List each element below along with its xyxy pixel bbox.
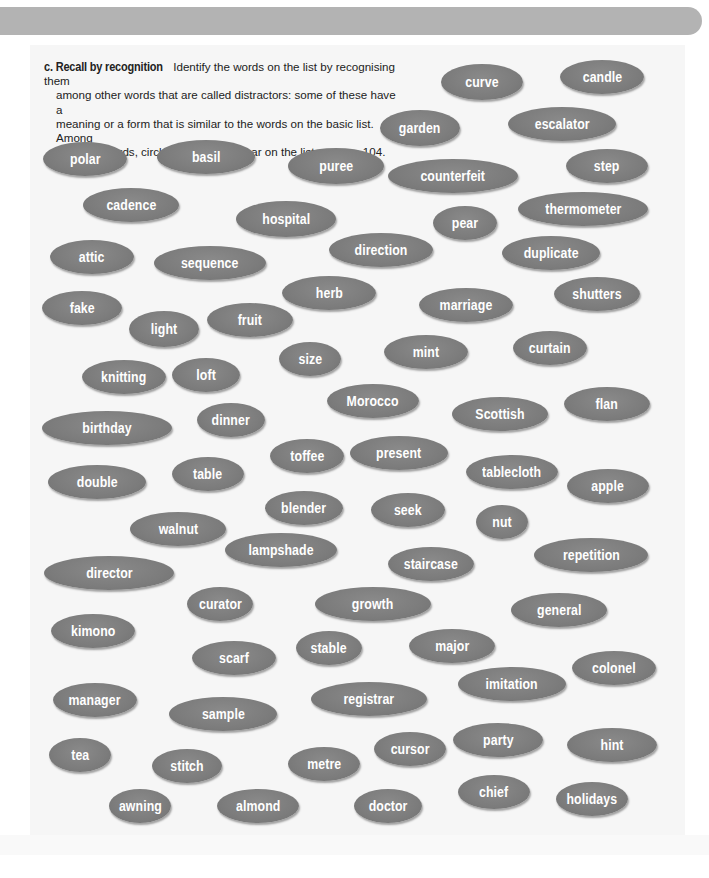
word-label: attic [79,249,105,265]
word-label: shutters [572,286,621,302]
word-oval-party[interactable]: party [453,723,543,757]
word-label: toffee [290,448,324,464]
word-oval-hint[interactable]: hint [567,728,657,762]
word-oval-cursor[interactable]: cursor [374,732,446,766]
word-label: seek [394,502,422,518]
word-oval-counterfeit[interactable]: counterfeit [388,159,518,193]
word-oval-tea[interactable]: tea [49,738,111,772]
word-label: doctor [369,798,408,814]
word-oval-garden[interactable]: garden [380,110,460,146]
word-oval-stable[interactable]: stable [296,631,362,665]
word-oval-scottish[interactable]: Scottish [452,397,548,431]
word-oval-tablecloth[interactable]: tablecloth [466,455,558,489]
word-label: size [298,351,322,367]
word-oval-doctor[interactable]: doctor [354,789,422,823]
word-oval-director[interactable]: director [44,556,174,590]
word-oval-nut[interactable]: nut [476,505,528,539]
word-oval-seek[interactable]: seek [371,493,445,527]
word-label: hint [601,737,624,753]
word-oval-hospital[interactable]: hospital [236,201,336,237]
word-oval-blender[interactable]: blender [265,491,343,525]
word-label: mint [413,344,439,360]
word-oval-repetition[interactable]: repetition [534,538,648,572]
word-oval-general[interactable]: general [511,593,607,627]
word-oval-growth[interactable]: growth [315,587,431,621]
word-oval-attic[interactable]: attic [50,240,134,274]
word-oval-loft[interactable]: loft [172,358,240,392]
word-label: repetition [562,547,619,563]
word-label: walnut [158,521,198,537]
word-oval-almond[interactable]: almond [217,789,299,823]
word-label: cadence [106,197,156,213]
word-oval-walnut[interactable]: walnut [130,512,226,546]
word-oval-light[interactable]: light [129,311,199,347]
word-label: garden [399,120,441,136]
word-oval-fruit[interactable]: fruit [207,303,293,337]
word-oval-curve[interactable]: curve [441,64,523,100]
word-oval-herb[interactable]: herb [282,276,376,310]
word-oval-curator[interactable]: curator [187,587,253,621]
word-oval-table[interactable]: table [172,457,244,491]
word-oval-fake[interactable]: fake [42,291,122,325]
word-oval-sequence[interactable]: sequence [154,246,266,280]
word-oval-thermometer[interactable]: thermometer [518,192,648,226]
word-oval-flan[interactable]: flan [564,387,650,421]
word-oval-apple[interactable]: apple [567,469,649,503]
word-label: sequence [181,255,239,271]
word-oval-present[interactable]: present [350,436,448,470]
word-oval-step[interactable]: step [566,149,648,183]
word-oval-mint[interactable]: mint [384,335,468,369]
word-oval-stitch[interactable]: stitch [152,749,222,783]
word-label: nut [492,514,511,530]
word-oval-birthday[interactable]: birthday [42,411,172,445]
word-label: light [151,321,177,337]
word-label: fruit [238,312,262,328]
word-oval-duplicate[interactable]: duplicate [502,236,600,270]
word-oval-kimono[interactable]: kimono [51,614,135,648]
word-label: counterfeit [421,168,486,184]
word-oval-escalator[interactable]: escalator [508,107,616,141]
word-oval-registrar[interactable]: registrar [311,682,427,716]
word-oval-lampshade[interactable]: lampshade [225,533,337,567]
word-oval-double[interactable]: double [48,465,146,499]
word-label: curtain [529,340,571,356]
word-label: cursor [391,741,430,757]
word-label: knitting [101,369,146,385]
word-oval-colonel[interactable]: colonel [572,651,656,685]
word-oval-marriage[interactable]: marriage [419,288,513,322]
exercise-label: c. Recall by recognition [44,60,163,74]
word-label: general [537,602,581,618]
word-oval-dinner[interactable]: dinner [197,403,265,437]
word-oval-direction[interactable]: direction [329,233,433,267]
word-oval-candle[interactable]: candle [560,60,644,94]
word-oval-pear[interactable]: pear [433,206,497,240]
word-label: growth [352,596,394,612]
word-oval-toffee[interactable]: toffee [270,439,344,473]
word-label: tea [71,747,89,763]
word-oval-knitting[interactable]: knitting [82,360,166,394]
word-oval-curtain[interactable]: curtain [513,331,587,365]
word-label: flan [596,396,618,412]
word-oval-awning[interactable]: awning [109,789,171,823]
word-oval-polar[interactable]: polar [43,142,127,176]
word-oval-size[interactable]: size [279,342,341,376]
word-oval-metre[interactable]: metre [288,747,360,781]
word-oval-scarf[interactable]: scarf [192,641,276,675]
word-label: staircase [404,556,458,572]
instruction-line-2: among other words that are called distra… [44,88,404,116]
word-oval-puree[interactable]: puree [288,148,384,184]
word-oval-sample[interactable]: sample [169,697,277,731]
word-oval-staircase[interactable]: staircase [388,547,474,581]
word-oval-chief[interactable]: chief [458,775,530,809]
word-oval-manager[interactable]: manager [53,683,137,717]
word-oval-shutters[interactable]: shutters [554,277,640,311]
word-oval-imitation[interactable]: imitation [458,667,566,701]
word-label: major [435,638,469,654]
word-label: basil [192,149,221,165]
word-oval-major[interactable]: major [409,629,495,663]
word-oval-holidays[interactable]: holidays [556,782,628,816]
word-oval-cadence[interactable]: cadence [83,188,179,222]
word-label: holidays [567,791,618,807]
word-oval-morocco[interactable]: Morocco [327,384,419,418]
word-oval-basil[interactable]: basil [157,140,255,174]
